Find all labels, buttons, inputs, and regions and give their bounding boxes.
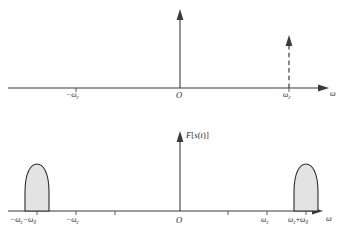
spectrum-figure: −ωc O ωc ω F[s(t)] −ωc−ω0 xyxy=(0,0,345,241)
origin-impulse-arrowhead xyxy=(177,9,184,20)
bottom-vertical-axis-arrowhead xyxy=(177,131,184,142)
bottom-label-origin: O xyxy=(176,216,182,225)
top-label-origin: O xyxy=(176,91,182,100)
lower-sideband-lobe xyxy=(25,164,49,211)
bottom-label-y-axis: F[s(t)] xyxy=(186,131,209,140)
top-panel-carrier-spectrum: −ωc O ωc ω xyxy=(0,0,345,120)
top-omega-axis-arrowhead xyxy=(318,85,329,92)
bottom-label-carrier-plus-mod: ωc+ω0 xyxy=(288,216,308,224)
top-label-omega-axis: ω xyxy=(330,90,336,98)
top-panel-plot xyxy=(0,0,345,120)
carrier-impulse-arrowhead xyxy=(286,35,293,46)
bottom-label-neg-carrier: −ωc xyxy=(66,216,79,224)
bottom-label-carrier: ωc xyxy=(261,216,269,224)
top-label-carrier: ωc xyxy=(283,91,291,99)
top-label-neg-carrier: −ωc xyxy=(66,91,79,99)
bottom-label-omega-axis: ω xyxy=(326,215,332,223)
bottom-label-neg-carrier-minus-mod: −ωc−ω0 xyxy=(10,216,36,224)
upper-sideband-lobe xyxy=(294,164,318,211)
bottom-panel-modulated-spectrum: F[s(t)] −ωc−ω0 −ωc O ωc ωc+ω0 ω xyxy=(0,120,345,241)
